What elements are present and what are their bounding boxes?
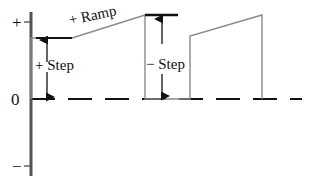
diagram-canvas: + 0 − + Step + Ramp − Step <box>0 0 309 181</box>
annotation-minus-step: − Step <box>146 56 185 72</box>
axis-label-positive: + <box>12 13 22 32</box>
annotation-plus-step: + Step <box>35 57 74 73</box>
axis-label-zero: 0 <box>11 90 20 109</box>
axis-label-negative: − <box>12 157 22 176</box>
signal-diagram: + 0 − + Step + Ramp − Step <box>0 0 309 181</box>
annotation-plus-ramp: + Ramp <box>67 2 117 28</box>
